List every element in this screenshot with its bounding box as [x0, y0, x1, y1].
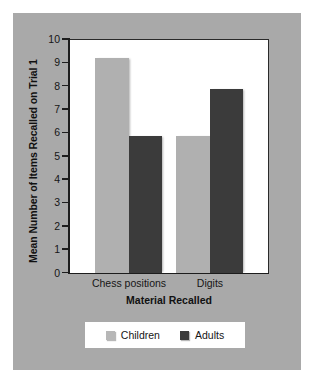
figure: Mean Number of Items Recalled on Trial 1…	[0, 0, 314, 383]
legend-label-adults: Adults	[195, 329, 224, 341]
bar-children-chess-positions	[95, 58, 129, 273]
legend-label-children: Children	[121, 329, 160, 341]
y-axis-tick-label: 6	[38, 127, 60, 137]
y-axis-tick-label: 9	[38, 57, 60, 67]
y-axis-tick-label: 10	[38, 34, 60, 44]
y-axis-tick-labels: 012345678910	[14, 0, 60, 383]
x-axis-tick-label: Digits	[150, 277, 270, 289]
y-axis-tick	[62, 155, 69, 157]
y-axis-tick-label: 7	[38, 104, 60, 114]
y-axis-tick	[62, 202, 69, 204]
legend-swatch-adults-icon	[180, 331, 189, 340]
y-axis-tick-label: 4	[38, 174, 60, 184]
y-axis-tick-label: 1	[38, 244, 60, 254]
y-axis-tick	[62, 225, 69, 227]
x-axis-line	[68, 273, 269, 275]
legend-item-children: Children	[106, 329, 160, 341]
bars-layer	[69, 39, 269, 273]
bar-adults-digits	[210, 89, 243, 272]
y-axis-tick-label: 8	[38, 81, 60, 91]
x-axis-title: Material Recalled	[69, 294, 269, 306]
y-axis-tick-label: 0	[38, 268, 60, 278]
y-axis-tick	[62, 178, 69, 180]
y-axis-tick	[62, 38, 69, 40]
y-axis-tick	[62, 62, 69, 64]
y-axis-tick	[62, 108, 69, 110]
y-axis-tick	[62, 272, 69, 274]
chart-legend: Children Adults	[85, 322, 245, 348]
y-axis-tick-label: 3	[38, 197, 60, 207]
bar-adults-chess-positions	[129, 136, 162, 273]
legend-item-adults: Adults	[180, 329, 224, 341]
y-axis-tick-label: 5	[38, 151, 60, 161]
y-axis-tick	[62, 132, 69, 134]
legend-swatch-children-icon	[106, 331, 115, 340]
bar-children-digits	[176, 136, 210, 273]
y-axis-tick	[62, 85, 69, 87]
y-axis-tick	[62, 248, 69, 250]
y-axis-tick-label: 2	[38, 221, 60, 231]
